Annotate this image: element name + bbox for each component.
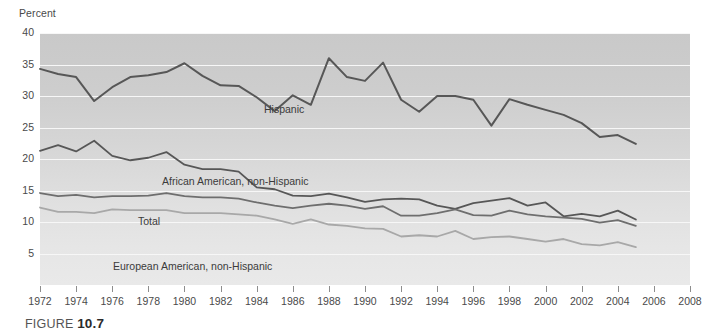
x-axis-tick <box>76 286 77 292</box>
x-axis-tick-label: 1980 <box>164 295 204 307</box>
x-axis-tick-label: 1996 <box>453 295 493 307</box>
y-axis-tick-label: 40 <box>8 26 34 38</box>
figure-caption: FIGURE 10.7 <box>25 316 104 331</box>
x-axis-tick <box>184 286 185 292</box>
x-axis-tick-label: 1986 <box>273 295 313 307</box>
x-axis-tick <box>546 286 547 292</box>
x-axis-tick-label: 2008 <box>670 295 710 307</box>
x-axis-tick <box>618 286 619 292</box>
x-axis-tick-label: 1990 <box>345 295 385 307</box>
x-axis-tick <box>654 286 655 292</box>
x-axis-tick-label: 1988 <box>309 295 349 307</box>
y-axis-tick-label: 15 <box>8 184 34 196</box>
x-axis-tick <box>582 286 583 292</box>
series-lines <box>40 33 690 285</box>
x-axis-tick-label: 1992 <box>381 295 421 307</box>
y-axis-tick-label: 5 <box>8 247 34 259</box>
x-axis-tick-label: 1974 <box>56 295 96 307</box>
x-axis-tick-label: 1998 <box>489 295 529 307</box>
x-axis-tick <box>437 286 438 292</box>
caption-number: 10.7 <box>77 316 104 331</box>
caption-prefix: FIGURE <box>25 317 73 331</box>
x-axis-tick-label: 1976 <box>92 295 132 307</box>
x-axis-tick <box>148 286 149 292</box>
series-label-hispanic: Hispanic <box>264 103 304 115</box>
x-axis-tick-label: 1978 <box>128 295 168 307</box>
y-axis-tick-label: 30 <box>8 89 34 101</box>
y-axis-tick-label: 10 <box>8 215 34 227</box>
figure-container: Percent 510152025303540 Hispanic African… <box>0 0 718 331</box>
x-axis-tick-label: 1972 <box>20 295 60 307</box>
y-axis-tick-label: 35 <box>8 58 34 70</box>
y-axis-tick-label: 20 <box>8 152 34 164</box>
series-label-european-american: European American, non-Hispanic <box>113 260 272 272</box>
x-axis-tick <box>509 286 510 292</box>
x-axis-tick <box>40 286 41 292</box>
series-line <box>40 208 636 248</box>
x-axis-tick <box>257 286 258 292</box>
x-axis-tick-label: 1984 <box>237 295 277 307</box>
x-axis-tick <box>221 286 222 292</box>
x-axis-tick <box>329 286 330 292</box>
x-axis-tick-label: 1994 <box>417 295 457 307</box>
x-axis-tick-label: 1982 <box>201 295 241 307</box>
x-axis-tick <box>473 286 474 292</box>
x-axis-tick <box>112 286 113 292</box>
x-axis-tick <box>293 286 294 292</box>
x-axis-tick <box>690 286 691 292</box>
x-axis-tick <box>401 286 402 292</box>
x-axis-tick <box>365 286 366 292</box>
plot-area: Hispanic African American, non-Hispanic … <box>40 33 690 285</box>
x-axis-tick-label: 2000 <box>526 295 566 307</box>
series-label-total: Total <box>138 215 160 227</box>
y-axis-tick-label: 25 <box>8 121 34 133</box>
series-line <box>40 141 636 220</box>
series-line <box>40 58 636 144</box>
y-axis-title: Percent <box>19 7 56 19</box>
series-label-african-american: African American, non-Hispanic <box>162 175 308 187</box>
x-axis-tick-label: 2002 <box>562 295 602 307</box>
x-axis-tick-label: 2006 <box>634 295 674 307</box>
x-axis-tick-label: 2004 <box>598 295 638 307</box>
